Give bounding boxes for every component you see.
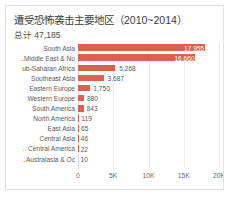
bar-row[interactable]: Eastern Europe1,750 xyxy=(6,83,224,93)
bar-row[interactable]: Central America ..22 xyxy=(6,144,224,154)
bar[interactable] xyxy=(78,75,104,82)
category-label: Southeast Asia xyxy=(6,75,78,82)
bar-value-label: 3,687 xyxy=(108,74,125,83)
bar-row[interactable]: Southeast Asia3,687 xyxy=(6,73,224,83)
bar-track: 17,955 xyxy=(78,43,224,53)
bar-track: 16,660 xyxy=(78,53,224,63)
category-label: Central Asia xyxy=(6,135,78,142)
category-label: ub-Saharan Africa xyxy=(6,65,78,72)
bar-row[interactable]: East Asia65 xyxy=(6,124,224,134)
bar-row[interactable]: Central Asia46 xyxy=(6,134,224,144)
category-label: South Asia xyxy=(6,45,78,52)
bar-value-label: 880 xyxy=(87,94,98,103)
bar-track: 5,268 xyxy=(78,63,224,73)
bar[interactable] xyxy=(78,115,79,122)
bar-value-label: 46 xyxy=(81,134,88,143)
bar-track: 22 xyxy=(78,144,224,154)
bar-track: 10 xyxy=(78,154,224,164)
category-label: North America xyxy=(6,115,78,122)
category-label: East Asia xyxy=(6,125,78,132)
bar-value-label: 16,660 xyxy=(174,54,194,63)
bar-value-label: 5,268 xyxy=(119,64,136,73)
bar-value-label: 22 xyxy=(81,145,88,154)
bar-track: 1,750 xyxy=(78,83,224,93)
x-tick-label: 5K xyxy=(109,172,117,179)
bar[interactable] xyxy=(78,85,90,92)
bar-row[interactable]: Middle East & No..16,660 xyxy=(6,53,224,63)
bar-track: 3,687 xyxy=(78,73,224,83)
x-axis: 05K10K15K20K xyxy=(78,170,219,184)
chart-plot-area: South Asia17,955Middle East & No..16,660… xyxy=(6,43,224,190)
bar-value-label: 17,955 xyxy=(184,44,204,53)
category-label: Australasia & Oc.. xyxy=(6,156,78,163)
category-label: Eastern Europe xyxy=(6,85,78,92)
bar[interactable] xyxy=(78,105,84,112)
x-tick-label: 10K xyxy=(142,172,154,179)
category-label: South America xyxy=(6,105,78,112)
bar-row[interactable]: South Asia17,955 xyxy=(6,43,224,53)
chart-card: 遭受恐怖袭击主要地区（2010~2014） 总计 47,185 South As… xyxy=(5,5,224,190)
bar-value-label: 1,750 xyxy=(93,84,110,93)
category-label: Western Europe xyxy=(6,95,78,102)
bar-track: 880 xyxy=(78,93,224,103)
bar[interactable] xyxy=(78,65,115,72)
bar-value-label: 119 xyxy=(81,114,92,123)
chart-title: 遭受恐怖袭击主要地区（2010~2014） xyxy=(14,12,187,27)
bar-rows: South Asia17,955Middle East & No..16,660… xyxy=(6,43,224,165)
x-tick-label: 15K xyxy=(178,172,190,179)
bar-row[interactable]: South America843 xyxy=(6,104,224,114)
bar-row[interactable]: North America119 xyxy=(6,114,224,124)
bar-value-label: 65 xyxy=(81,124,88,133)
x-tick-label: 0 xyxy=(76,172,80,179)
x-tick-label: 20K xyxy=(213,172,224,179)
bar-value-label: 10 xyxy=(81,155,88,164)
bar-row[interactable]: Western Europe880 xyxy=(6,93,224,103)
bar-track: 843 xyxy=(78,104,224,114)
bar-row[interactable]: ub-Saharan Africa5,268 xyxy=(6,63,224,73)
bar-row[interactable]: Australasia & Oc..10 xyxy=(6,154,224,164)
bar-track: 65 xyxy=(78,124,224,134)
bar[interactable] xyxy=(78,95,84,102)
category-label: Central America .. xyxy=(6,145,78,152)
bar-value-label: 843 xyxy=(87,104,98,113)
bar-track: 46 xyxy=(78,134,224,144)
chart-subtitle-total: 总计 47,185 xyxy=(14,28,60,40)
category-label: Middle East & No.. xyxy=(6,55,78,62)
bar-track: 119 xyxy=(78,114,224,124)
